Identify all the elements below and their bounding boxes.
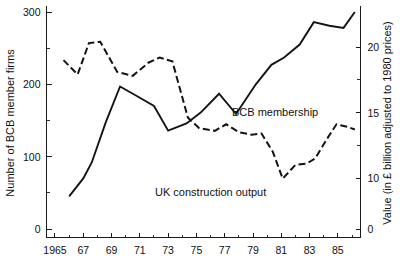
series-label-bcb-membership: BCB membership <box>232 106 318 118</box>
x-tick-label: 77 <box>219 244 231 256</box>
x-tick-label: 81 <box>275 244 287 256</box>
right-tick-label: 20 <box>368 41 380 53</box>
right-axis-title: Value (in £ billion adjusted to 1980 pri… <box>381 21 393 224</box>
x-tick-label: 75 <box>191 244 203 256</box>
right-tick-label: 15 <box>368 107 380 119</box>
x-tick-label: 1965 <box>43 244 67 256</box>
x-tick-label: 69 <box>106 244 118 256</box>
left-axis-title: Number of BCB member firms <box>4 49 16 197</box>
x-tick-label: 79 <box>247 244 259 256</box>
x-tick-label: 71 <box>134 244 146 256</box>
x-tick-label: 83 <box>304 244 316 256</box>
left-axis-ticks: 0100200300 <box>23 6 52 235</box>
x-tick-label: 73 <box>162 244 174 256</box>
series-label-uk-construction-output: UK construction output <box>155 186 266 198</box>
x-tick-label: 67 <box>77 244 89 256</box>
left-tick-label: 0 <box>35 223 41 235</box>
line-chart: 0100200300 0101520 196567697173757779818… <box>0 0 400 270</box>
left-tick-label: 100 <box>23 151 41 163</box>
left-tick-label: 200 <box>23 78 41 90</box>
right-tick-label: 10 <box>368 172 380 184</box>
bottom-axis-ticks: 196567697173757779818385 <box>43 233 352 256</box>
chart-page: 0100200300 0101520 196567697173757779818… <box>0 0 400 270</box>
series-line-bcb-membership <box>69 12 355 196</box>
x-tick-label: 85 <box>332 244 344 256</box>
left-tick-label: 300 <box>23 6 41 18</box>
right-axis-ticks: 0101520 <box>356 41 380 235</box>
right-tick-label: 0 <box>368 223 374 235</box>
